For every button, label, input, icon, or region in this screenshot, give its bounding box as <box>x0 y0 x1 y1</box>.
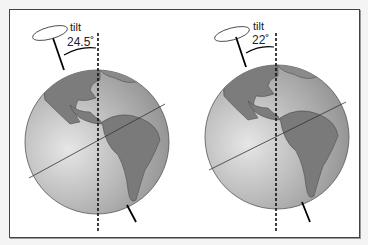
rotation-arrow-left-icon <box>31 23 69 44</box>
left-panel: tilt 24.5˚ <box>25 21 169 232</box>
axis-top-right <box>236 37 246 67</box>
angle-label-right: 22˚ <box>252 33 269 47</box>
right-panel: tilt 22˚ <box>205 20 349 232</box>
tilt-diagram: tilt 24.5˚ tilt 22˚ <box>0 0 368 245</box>
rotation-arrow-right-icon <box>213 24 251 45</box>
angle-label-left: 24.5˚ <box>67 35 94 49</box>
angle-arc-right <box>246 47 274 53</box>
tilt-label-right: tilt <box>253 20 264 32</box>
axis-bottom-left <box>127 205 136 222</box>
tilt-label-left: tilt <box>70 21 81 33</box>
axis-bottom-right <box>302 202 310 222</box>
axis-top-left <box>53 38 64 70</box>
